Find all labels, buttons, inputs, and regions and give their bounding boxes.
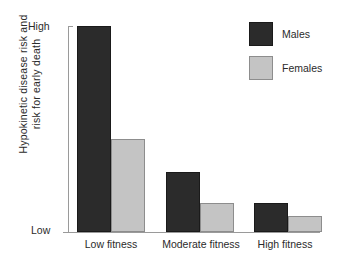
legend-swatch-males-icon xyxy=(249,22,273,46)
bar-moderate-fitness-females xyxy=(200,203,234,232)
y-axis-tick-low: Low xyxy=(31,224,50,236)
x-axis-label-high-fitness: High fitness xyxy=(249,238,321,250)
y-axis-tick-mark-bottom xyxy=(63,232,69,233)
legend-entry-males: Males xyxy=(249,22,322,46)
legend-label-males: Males xyxy=(282,28,310,40)
legend-swatch-females-icon xyxy=(249,56,273,80)
bar-low-fitness-males xyxy=(77,26,111,232)
bar-chart-figure: Hypokinetic disease risk and risk for ea… xyxy=(0,0,337,267)
chart-legend: Males Females xyxy=(249,22,322,90)
x-axis-label-low-fitness: Low fitness xyxy=(77,238,145,250)
bar-low-fitness-females xyxy=(111,139,145,232)
bar-moderate-fitness-males xyxy=(166,172,200,232)
y-axis-tick-high: High xyxy=(28,20,50,32)
bar-high-fitness-males xyxy=(254,203,288,232)
x-axis-label-moderate-fitness: Moderate fitness xyxy=(156,238,246,250)
legend-label-females: Females xyxy=(282,62,322,74)
bar-high-fitness-females xyxy=(288,216,322,232)
legend-entry-females: Females xyxy=(249,56,322,80)
x-axis-line xyxy=(68,232,320,233)
